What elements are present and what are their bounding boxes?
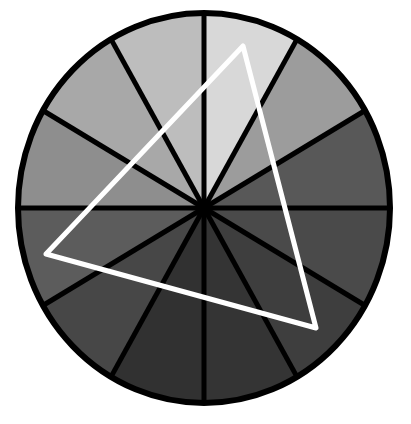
wheel-center-hub	[197, 201, 211, 215]
color-wheel-diagram	[0, 0, 411, 424]
color-wheel	[0, 0, 411, 424]
